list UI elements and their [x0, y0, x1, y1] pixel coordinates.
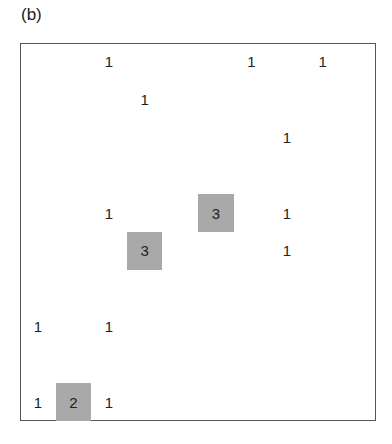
grid-cell: 1	[305, 43, 341, 81]
grid-cell: 1	[269, 194, 305, 232]
grid-cell: 1	[91, 43, 127, 81]
grid-cell: 1	[20, 308, 56, 346]
shaded-grid-cell: 2	[56, 383, 92, 421]
grid-cell: 1	[127, 81, 163, 119]
count-grid: 111111313111121	[20, 43, 376, 421]
grid-cell: 1	[91, 383, 127, 421]
panel-label: (b)	[21, 4, 42, 26]
grid-cell: 1	[91, 308, 127, 346]
grid-cell: 1	[269, 119, 305, 157]
shaded-grid-cell: 3	[198, 194, 234, 232]
grid-cell: 1	[234, 43, 270, 81]
grid-cell: 1	[20, 383, 56, 421]
shaded-grid-cell: 3	[127, 232, 163, 270]
grid-cell: 1	[91, 194, 127, 232]
grid-cell: 1	[269, 232, 305, 270]
